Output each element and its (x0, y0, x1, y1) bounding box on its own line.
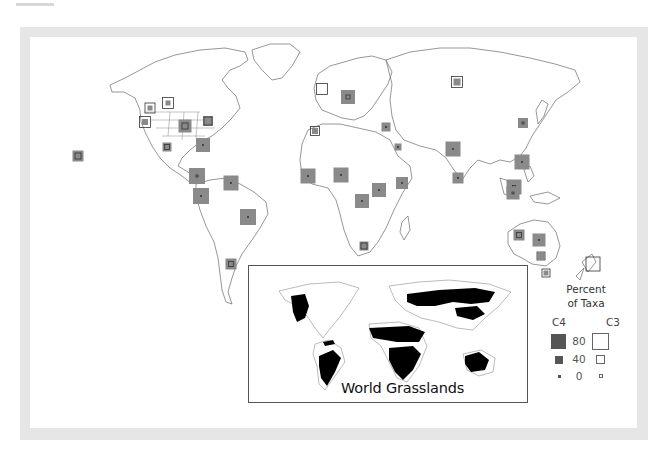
site-marker (514, 230, 525, 241)
legend-value-40: 40 (569, 353, 589, 365)
site-marker (179, 120, 192, 133)
site-marker (145, 103, 155, 113)
grassland-venezuela (323, 340, 335, 346)
site-marker (240, 209, 256, 225)
site-marker (73, 151, 84, 162)
site-marker (395, 144, 402, 151)
site-marker (446, 142, 461, 157)
grassland-south-america (319, 350, 341, 386)
grassland-north-america (291, 294, 309, 322)
europe-outline (314, 56, 392, 120)
legend-c4-0-swatch (558, 375, 561, 378)
grassland-africa-south (389, 346, 421, 380)
site-marker (586, 257, 600, 271)
site-marker (518, 118, 528, 128)
site-marker (372, 183, 386, 197)
site-marker (196, 138, 210, 152)
site-marker (189, 168, 205, 184)
grassland-australia (465, 352, 489, 372)
legend-value-0: 0 (569, 370, 589, 382)
site-marker (193, 188, 209, 204)
site-marker (203, 116, 213, 126)
site-marker (301, 169, 316, 184)
world-grasslands-inset: World Grasslands (248, 265, 528, 403)
site-marker (453, 173, 464, 184)
legend-c4-80-swatch (551, 334, 566, 349)
grassland-eurasian-steppe (407, 288, 495, 306)
grassland-regions (291, 288, 495, 386)
legend-title-line1: Percent (546, 282, 626, 296)
legend-c3-40-swatch (596, 355, 605, 364)
site-marker (224, 176, 239, 191)
legend-c3-0-swatch (599, 374, 603, 378)
north-america-outline (110, 48, 248, 184)
legend-title-line2: of Taxa (546, 296, 626, 310)
asia-outline (386, 48, 580, 180)
site-marker (396, 177, 408, 189)
site-marker (334, 168, 349, 183)
legend-c4-label: C4 (552, 316, 566, 328)
legend: Percent of Taxa C4 C3 80 40 0 (546, 282, 626, 392)
site-marker (355, 194, 369, 208)
site-marker (382, 123, 391, 132)
site-marker (507, 187, 520, 200)
site-marker (163, 98, 174, 109)
grassland-africa-sahel (369, 326, 425, 342)
inset-title: World Grasslands (341, 380, 464, 396)
site-marker (226, 259, 237, 270)
legend-value-80: 80 (569, 335, 589, 347)
site-marker (341, 90, 355, 104)
sites-layer (73, 77, 601, 278)
greenland-outline (252, 44, 300, 80)
legend-c3-label: C3 (606, 316, 620, 328)
site-marker (360, 242, 369, 251)
site-marker (542, 269, 550, 277)
site-marker (317, 84, 328, 95)
site-marker (163, 143, 172, 152)
legend-c3-80-swatch (592, 333, 609, 350)
site-marker (452, 77, 463, 88)
site-marker (537, 252, 545, 260)
site-marker (533, 234, 546, 247)
legend-c4-40-swatch (555, 356, 563, 364)
grassland-mongolia (455, 306, 485, 320)
site-marker (311, 127, 320, 136)
site-marker (515, 155, 530, 170)
